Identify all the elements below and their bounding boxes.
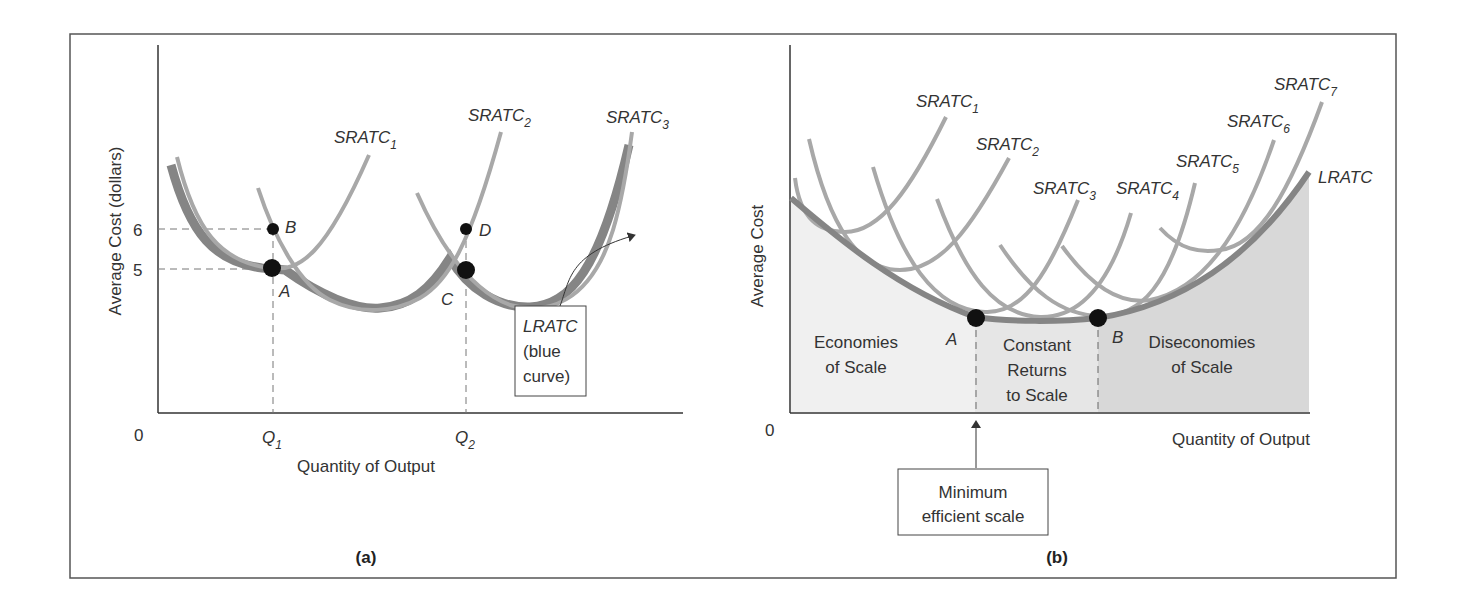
origin-a: 0: [134, 426, 143, 445]
panel-b: A B SRATC1 SRATC2 SRATC3 SRATC4 SRATC5 S…: [748, 45, 1373, 567]
panel-a-sratc1-curve: [177, 155, 369, 269]
panel-a-lratc-curve: [171, 145, 629, 308]
point-b: [267, 223, 279, 235]
label-point-a: A: [278, 282, 290, 301]
xtick-q2: Q2: [455, 428, 475, 452]
region-diseconomies-label-2: of Scale: [1171, 358, 1232, 377]
panel-a-sratc3-curve: [417, 132, 632, 308]
point-a: [263, 259, 281, 277]
label-sratc4-b: SRATC4: [1116, 179, 1179, 203]
point-d: [460, 223, 472, 235]
panel-a-tag: (a): [356, 548, 377, 567]
label-sratc1-a: SRATC1: [334, 128, 397, 152]
ytick-5: 5: [133, 261, 142, 280]
lratc-callout-line3: curve): [523, 367, 570, 386]
mes-callout-line1: Minimum: [939, 483, 1008, 502]
label-sratc2-b: SRATC2: [976, 135, 1039, 159]
region-economies-label-1: Economies: [814, 333, 898, 352]
point-a-b: [967, 309, 985, 327]
panel-b-tag: (b): [1046, 548, 1068, 567]
label-sratc2-a: SRATC2: [468, 106, 531, 130]
label-sratc5-b: SRATC5: [1176, 152, 1239, 176]
mes-callout-line2: efficient scale: [922, 507, 1025, 526]
point-c: [457, 261, 475, 279]
panel-a: B A D C SRATC1 SRATC2 SRATC3 LRATC (blue…: [106, 45, 683, 567]
panel-b-x-label: Quantity of Output: [1172, 430, 1310, 449]
label-sratc6-b: SRATC6: [1227, 112, 1290, 136]
panel-b-y-label: Average Cost: [748, 204, 767, 307]
label-sratc1-b: SRATC1: [916, 92, 979, 116]
label-point-b-b: B: [1112, 328, 1123, 347]
label-sratc7-b: SRATC7: [1274, 75, 1338, 99]
region-economies-label-2: of Scale: [825, 358, 886, 377]
xtick-q1: Q1: [262, 428, 282, 452]
label-sratc3-b: SRATC3: [1033, 179, 1096, 203]
label-point-a-b: A: [945, 330, 957, 349]
panel-b-sratc4-curve: [937, 199, 1131, 317]
label-lratc-b: LRATC: [1318, 168, 1373, 187]
panel-a-x-label: Quantity of Output: [297, 457, 435, 476]
figure: B A D C SRATC1 SRATC2 SRATC3 LRATC (blue…: [0, 0, 1467, 614]
region-constant-label-1: Constant: [1003, 336, 1071, 355]
label-point-c: C: [441, 290, 454, 309]
lratc-callout-line2: (blue: [523, 342, 561, 361]
region-constant-label-3: to Scale: [1006, 386, 1067, 405]
label-sratc3-a: SRATC3: [606, 108, 669, 132]
lratc-callout-title: LRATC: [523, 317, 578, 336]
point-b-b: [1089, 309, 1107, 327]
origin-b: 0: [765, 421, 774, 440]
label-point-b: B: [285, 218, 296, 237]
region-diseconomies-label-1: Diseconomies: [1149, 333, 1256, 352]
region-constant-label-2: Returns: [1007, 361, 1067, 380]
label-point-d: D: [479, 221, 491, 240]
ytick-6: 6: [133, 221, 142, 240]
panel-a-y-label: Average Cost (dollars): [106, 147, 125, 316]
